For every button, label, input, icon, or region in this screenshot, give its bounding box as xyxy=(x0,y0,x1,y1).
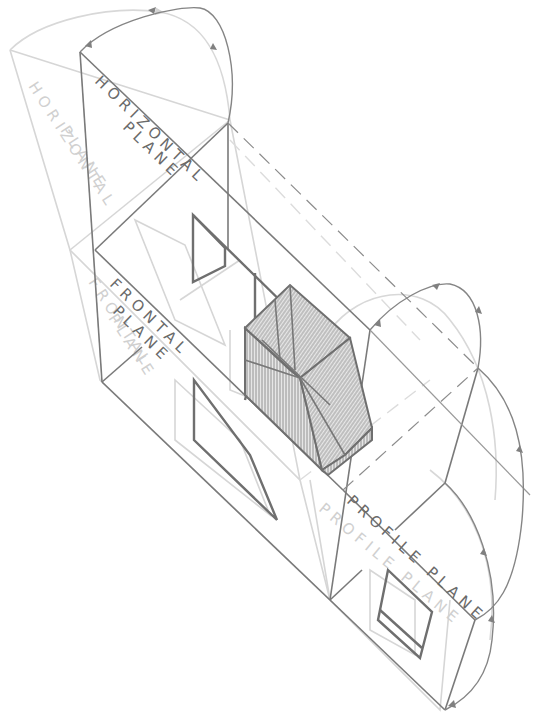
ghost-horizontal-label-2: PLANE xyxy=(57,122,112,194)
profile-back-edge xyxy=(395,483,445,530)
arrow-icon xyxy=(148,7,156,14)
arrow-icon xyxy=(210,43,217,50)
top-view-projection xyxy=(193,215,225,282)
rotation-arc-horizontal xyxy=(80,8,232,123)
arrow-icon xyxy=(374,319,381,327)
horizontal-plane-label: HORIZONTAL xyxy=(91,72,210,188)
profile-back-edge-2 xyxy=(330,570,362,600)
ghost-profile-label: PROFILE PLANE xyxy=(315,499,465,629)
ghost-edge xyxy=(180,260,240,300)
arrow-icon xyxy=(516,445,523,453)
projection-planes-diagram: HORIZONTAL PLANE FRONTAL PLANE PROFILE P… xyxy=(0,0,543,726)
arrow-icon xyxy=(480,548,487,556)
rotation-arc-profile-outer xyxy=(475,368,523,620)
profile-back-edge-3 xyxy=(445,368,478,483)
projector-line-solid xyxy=(370,330,530,495)
horizontal-plane-left-edge xyxy=(80,52,102,382)
arrow-icon xyxy=(448,700,456,708)
ghost-projector xyxy=(230,140,420,340)
rotation-arc-profile-upper xyxy=(370,284,481,368)
profile-plane-right-edge xyxy=(445,620,475,710)
